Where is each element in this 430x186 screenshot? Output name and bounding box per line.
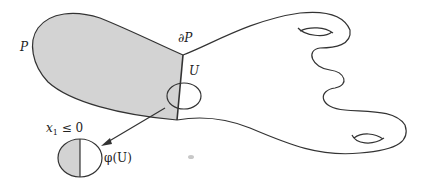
manifold-with-boundary-diagram: P ∂P U x1 ≤ 0 φ(U) [0,0,430,186]
chart-image-shaded-half [58,139,80,177]
handle-hole-bottom [352,134,384,143]
label-manifold: P [19,40,29,54]
surface-outline-top [177,12,406,153]
handle-hole-top [298,28,333,36]
manifold-region-shaded [33,13,183,120]
label-chart-domain: U [189,64,200,78]
label-boundary: ∂P [178,31,193,45]
scan-speck [188,155,194,159]
label-halfspace-condition: x1 ≤ 0 [46,121,83,137]
label-chart-image: φ(U) [104,151,132,165]
halfspace-rel: ≤ 0 [58,121,83,135]
arrowhead-icon [101,138,112,146]
